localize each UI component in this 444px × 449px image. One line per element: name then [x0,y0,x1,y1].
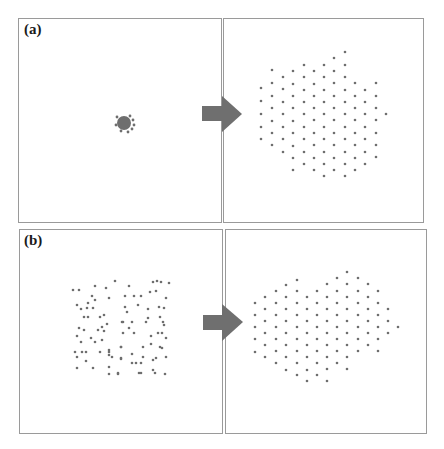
particle-dot [316,362,319,365]
particle-dot [306,356,309,359]
particle-dot [333,119,336,122]
particle-dot [145,321,148,324]
particle-dot [90,337,93,340]
particle-dot [346,308,349,311]
particle-dot [131,362,134,365]
particle-dot [346,320,349,323]
particle-dot [303,163,306,166]
particle-dot [296,279,299,282]
particle-dot [87,302,90,305]
particle-dot [323,113,326,116]
particle-dot [260,138,263,141]
particle-dot [367,308,370,311]
particle-dot [387,332,390,335]
particle-dot [292,132,295,135]
particle-dot [147,308,150,311]
particle-dot [313,107,316,110]
particle-dot [303,101,306,104]
particle-dot [303,113,306,116]
particle-dot [94,299,97,302]
particle-dot [80,341,83,344]
arrow-icon-group [202,96,243,341]
particle-dot [108,351,111,354]
particle-dot [292,157,295,160]
particle-dot [364,101,367,104]
particle-dot [116,116,119,119]
particle-dot [164,373,167,376]
particle-dot [122,332,125,335]
particle-dot [122,321,125,324]
particle-dot [354,144,357,147]
particle-dot [271,144,274,147]
particle-dot [344,51,347,54]
particle-dot [282,88,285,91]
particle-dot [377,314,380,317]
particle-dot [92,307,95,310]
particle-dot [271,95,274,98]
particle-dot [357,302,360,305]
particle-dot [128,327,131,330]
particle-dot [333,82,336,85]
particle-dot [78,289,81,292]
particle-dot [375,82,378,85]
particle-dot [326,344,329,347]
particle-dot [275,314,278,317]
particle-dot [323,151,326,154]
particle-dot [76,335,79,338]
particle-dot [161,347,164,350]
particle-dot [292,83,295,86]
particle-dot [285,284,288,287]
particle-dot [282,138,285,141]
particle-dot [135,362,138,365]
particle-dot [105,287,108,290]
particle-dot [124,306,127,309]
particle-dot [80,308,83,311]
particle-dot [357,326,360,329]
particle-dot [271,82,274,85]
particle-dot [354,119,357,122]
particle-dot [140,295,143,298]
particle-dot [275,302,278,305]
particle-dot [387,308,390,311]
particle-dot [375,107,378,110]
particle-dot [333,70,336,73]
particle-dot [364,89,367,92]
particle-dot [161,332,164,335]
particle-dot [357,338,360,341]
particle-dot [150,335,153,338]
right-arrow-icon [222,96,242,132]
particle-dot [296,326,299,329]
particle-dot [165,297,168,300]
particle-dot [306,369,309,372]
particle-dot [162,321,165,324]
particle-dot [133,124,136,127]
particle-dot [87,316,90,319]
particle-dot [285,356,288,359]
particle-dot [101,339,104,342]
particle-dot [137,304,140,307]
particle-dot [260,100,263,103]
b-final-lattice-dots [254,271,400,383]
particle-dot [385,113,388,116]
particle-dot [313,144,316,147]
particle-dot [157,332,160,335]
particle-dot [326,368,329,371]
particle-dot [275,362,278,365]
particle-dot [357,350,360,353]
particle-dot [377,350,380,353]
particle-dot [296,374,299,377]
particle-dot [292,169,295,172]
particle-dot [357,277,360,280]
particle-dot [152,281,155,284]
particle-dot [364,163,367,166]
particle-dot [282,113,285,116]
particle-dot [375,132,378,135]
particle-dot [326,283,329,286]
particle-dot [150,343,153,346]
particle-dot [344,101,347,104]
particle-dot [306,320,309,323]
particle-dot [83,329,86,332]
particle-dot [357,290,360,293]
particle-dot [336,362,339,365]
particle-dot [275,326,278,329]
